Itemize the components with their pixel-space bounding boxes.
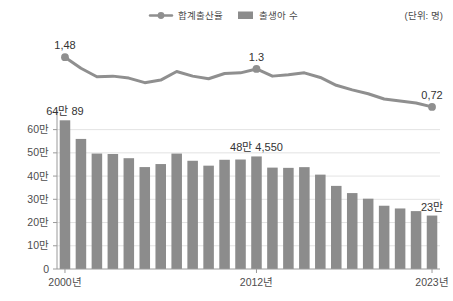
- bar-swatch-icon: [238, 12, 253, 20]
- x-axis-label: 2000년: [48, 276, 81, 288]
- bar: [331, 186, 342, 269]
- bar: [108, 154, 119, 269]
- bar: [427, 216, 438, 269]
- line-marker: [428, 103, 436, 111]
- bar-data-label: 48만 4,550: [230, 141, 283, 153]
- y-axis-label: 10만: [27, 239, 49, 251]
- x-axis-label: 2012년: [240, 276, 273, 288]
- y-axis-label: 50만: [27, 146, 49, 158]
- bar: [411, 211, 422, 269]
- bar-data-label: 23만: [421, 201, 443, 213]
- bar: [219, 160, 230, 269]
- legend-label-births: 출생아 수: [259, 10, 298, 21]
- bar: [267, 168, 278, 269]
- bar: [379, 206, 390, 269]
- legend-label-fertility: 합계출산율: [178, 10, 223, 21]
- x-axis-label: 2023년: [415, 276, 448, 288]
- line-marker: [61, 53, 69, 61]
- bar: [235, 160, 246, 269]
- bar: [76, 139, 87, 269]
- bar: [203, 166, 214, 269]
- y-axis-label: 60만: [27, 123, 49, 135]
- bar: [155, 164, 166, 269]
- y-axis-label: 20만: [27, 216, 49, 228]
- legend-marker-dot-icon: [158, 12, 165, 19]
- bar-data-label: 64만 89: [46, 105, 84, 117]
- y-axis-label: 30만: [27, 193, 49, 205]
- y-axis-label: 40만: [27, 170, 49, 182]
- bar: [347, 193, 358, 269]
- chart-canvas: 합계출산율 출생아 수 (단위: 명) 010만20만30만40만50만60만 …: [0, 0, 453, 301]
- bar: [92, 154, 103, 269]
- bar: [187, 161, 198, 269]
- line-data-label: 0,72: [421, 89, 442, 101]
- bar: [251, 156, 262, 269]
- line-data-label: 1.3: [249, 51, 264, 63]
- line-marker: [253, 65, 261, 73]
- y-axis-label: 0: [43, 263, 49, 275]
- bar: [299, 167, 310, 269]
- bar: [315, 175, 326, 269]
- bar: [395, 208, 406, 269]
- unit-note: (단위: 명): [404, 10, 443, 21]
- bar: [124, 158, 135, 269]
- bar: [283, 168, 294, 269]
- bar: [60, 120, 71, 269]
- bar: [171, 154, 182, 269]
- fertility-birth-chart: 합계출산율 출생아 수 (단위: 명) 010만20만30만40만50만60만 …: [0, 0, 453, 301]
- bar: [140, 167, 151, 269]
- line-data-label: 1,48: [54, 39, 75, 51]
- bar: [363, 199, 374, 269]
